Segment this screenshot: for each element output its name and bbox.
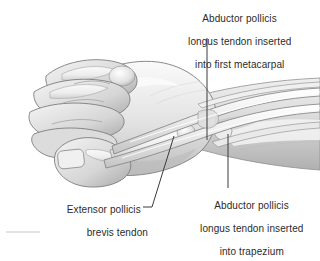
label-line-1: Abductor pollicis bbox=[202, 13, 277, 24]
thumb-nail bbox=[57, 149, 85, 170]
label-line-2: longus tendon inserted bbox=[200, 223, 303, 234]
label-line-1: Abductor pollicis bbox=[214, 200, 289, 211]
label-line-3: into first metacarpal bbox=[195, 59, 284, 70]
label-line-2: brevis tendon bbox=[46, 227, 150, 239]
footer-mark bbox=[6, 231, 40, 233]
label-extensor-pollicis-brevis: Extensor pollicis brevis tendon bbox=[46, 192, 150, 261]
label-abductor-pollicis-longus-metacarpal: Abductor pollicis longus tendon inserted… bbox=[160, 1, 308, 82]
label-line-1: Extensor pollicis bbox=[67, 204, 141, 215]
label-line-2: longus tendon inserted bbox=[188, 36, 291, 47]
label-abductor-pollicis-longus-trapezium: Abductor pollicis longus tendon inserted… bbox=[172, 188, 320, 261]
label-line-3: into trapezium bbox=[220, 246, 284, 257]
